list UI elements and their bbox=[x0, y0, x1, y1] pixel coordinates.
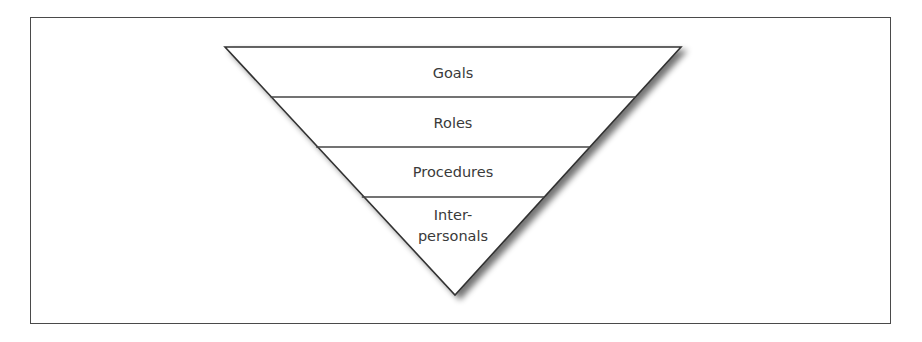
layer-goals: Goals bbox=[433, 65, 474, 81]
layer-procedures: Procedures bbox=[413, 164, 493, 180]
layer-label-interpersonals-line2: personals bbox=[418, 228, 488, 244]
layer-roles: Roles bbox=[434, 115, 473, 131]
layer-label-goals: Goals bbox=[433, 65, 474, 81]
inverted-pyramid-diagram: Goals Roles Procedures Inter- personals bbox=[0, 0, 922, 342]
layer-label-roles: Roles bbox=[434, 115, 473, 131]
layer-label-interpersonals-line1: Inter- bbox=[434, 207, 472, 223]
layer-label-procedures: Procedures bbox=[413, 164, 493, 180]
